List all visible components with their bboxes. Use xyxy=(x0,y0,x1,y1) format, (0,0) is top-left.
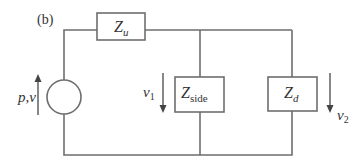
v2-label: v2 xyxy=(337,107,349,125)
v1-arrow-head xyxy=(160,105,167,113)
v1-label: v1 xyxy=(143,84,155,102)
circuit-diagram: Zu Zside Zd (b) p,v v1 v2 xyxy=(0,0,362,166)
wire-bottom xyxy=(64,111,292,155)
source-circle xyxy=(47,80,81,114)
wire-left-top xyxy=(64,30,97,80)
v2-arrow-head xyxy=(327,105,334,113)
source-label: p,v xyxy=(17,89,36,105)
source-arrow-head xyxy=(35,74,42,82)
figure-label: (b) xyxy=(37,12,54,28)
